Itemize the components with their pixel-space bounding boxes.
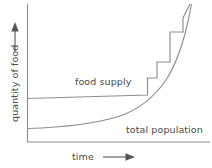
food-supply-label: food supply bbox=[75, 76, 132, 87]
malthusian-growth-chart: quantity of food time food supply total … bbox=[0, 0, 212, 168]
y-axis-label: quantity of food bbox=[9, 45, 20, 122]
x-axis-label: time bbox=[72, 151, 94, 162]
total-population-series-line bbox=[28, 4, 192, 129]
arrow-right-icon bbox=[103, 153, 135, 161]
total-population-label: total population bbox=[126, 124, 203, 135]
chart-plot-area: quantity of food time food supply total … bbox=[0, 0, 212, 168]
